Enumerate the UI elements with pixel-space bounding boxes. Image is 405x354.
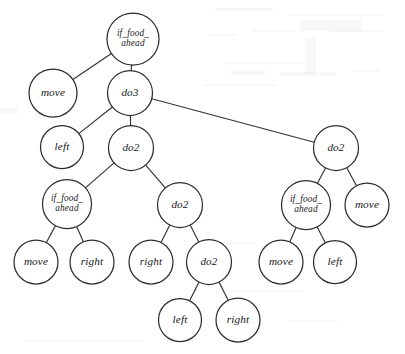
tree-node-label: do2 [327, 141, 344, 153]
tree-node[interactable]: do2 [187, 240, 232, 285]
tree-diagram: if_food_aheadmovedo3leftdo2do2if_food_ah… [0, 0, 405, 354]
tree-node[interactable]: left [41, 126, 84, 169]
tree-node[interactable]: right [216, 298, 260, 342]
tree-node-label: if_food_ahead [51, 193, 83, 213]
tree-node-label: left [328, 255, 344, 267]
tree-node-label: right [227, 313, 250, 325]
tree-node[interactable]: if_food_ahead [43, 180, 92, 229]
tree-node-label: right [81, 255, 104, 267]
tree-node-label: left [173, 313, 189, 325]
tree-node[interactable]: if_food_ahead [282, 181, 331, 230]
tree-edge [46, 226, 55, 243]
tree-edge [290, 227, 296, 241]
tree-edge [190, 282, 199, 301]
tree-edge [219, 282, 228, 300]
tree-node[interactable]: do2 [314, 126, 359, 171]
tree-node-label: move [355, 198, 379, 210]
tree-node[interactable]: move [29, 69, 77, 117]
tree-node[interactable]: do3 [108, 71, 153, 116]
tree-edge [73, 54, 112, 80]
tree-node[interactable]: do2 [109, 126, 154, 171]
tree-edge [161, 225, 170, 242]
tree-node-label: if_food_ahead [117, 28, 149, 48]
tree-node[interactable]: if_food_ahead [107, 13, 159, 65]
tree-node[interactable]: right [129, 240, 173, 284]
tree-node[interactable]: right [70, 240, 114, 284]
tree-node[interactable]: move [14, 240, 58, 284]
tree-node-label: if_food_ahead [290, 194, 322, 214]
tree-node[interactable]: left [159, 299, 202, 342]
tree-node[interactable]: do2 [158, 183, 203, 228]
node-layer: if_food_aheadmovedo3leftdo2do2if_food_ah… [14, 13, 389, 342]
tree-node-label: do3 [121, 86, 138, 98]
tree-edge [77, 227, 84, 242]
tree-node[interactable]: move [259, 240, 303, 284]
tree-node-label: move [269, 255, 293, 267]
tree-edge [347, 168, 357, 186]
tree-edge [79, 107, 113, 134]
tree-node-label: move [24, 255, 48, 267]
tree-edge [146, 165, 166, 188]
tree-node-label: do2 [122, 141, 139, 153]
tree-node-label: right [140, 255, 163, 267]
tree-node-label: left [55, 140, 71, 152]
tree-node-label: move [41, 86, 65, 98]
tree-edge [190, 225, 199, 242]
tree-edge [152, 99, 315, 142]
tree-edge [317, 168, 325, 183]
tree-node-label: do2 [171, 198, 188, 210]
tree-node[interactable]: left [314, 241, 357, 284]
tree-node[interactable]: move [345, 183, 389, 227]
tree-node-label: do2 [200, 255, 217, 267]
tree-edge [317, 227, 325, 243]
tree-edge [85, 163, 114, 188]
